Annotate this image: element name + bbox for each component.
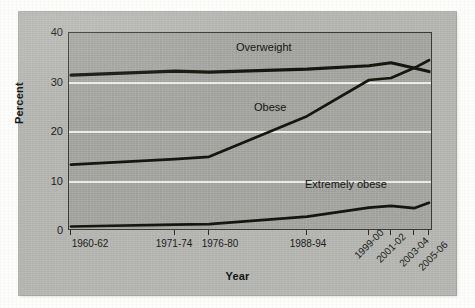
x-label-1960-62: 1960-62 <box>72 238 109 249</box>
x-label-1976-80: 1976-80 <box>202 238 239 249</box>
line-extremely-obese <box>71 203 429 227</box>
series-label-obese: Obese <box>254 101 286 113</box>
plot-area: Overweight Obese Extremely obese <box>68 32 432 230</box>
y-axis-tick-labels: 40 30 20 10 0 <box>19 32 63 230</box>
y-tick-20: 20 <box>51 126 63 137</box>
figure-panel: 40 30 20 10 0 Percent Overweight <box>19 12 456 295</box>
y-tick-0: 0 <box>57 225 63 236</box>
x-tick-2003-04 <box>413 230 414 235</box>
x-tick-1988-94 <box>306 230 307 235</box>
y-tick-30: 30 <box>51 77 63 88</box>
x-label-1988-94: 1988-94 <box>290 238 327 249</box>
x-tick-2001-02 <box>390 230 391 235</box>
x-tick-1960-62 <box>70 230 71 235</box>
x-tick-1976-80 <box>208 230 209 235</box>
line-overweight <box>71 63 429 75</box>
x-tick-2005-06 <box>428 230 429 235</box>
page-canvas: 40 30 20 10 0 Percent Overweight <box>0 0 475 308</box>
y-tick-40: 40 <box>51 27 63 38</box>
y-axis-title: Percent <box>13 82 25 124</box>
series-lines <box>69 33 433 231</box>
series-label-overweight: Overweight <box>236 41 292 53</box>
x-tick-1971-74 <box>174 230 175 235</box>
x-label-1971-74: 1971-74 <box>156 238 193 249</box>
series-label-extremely-obese: Extremely obese <box>305 178 387 190</box>
line-obese <box>71 60 429 165</box>
y-tick-10: 10 <box>51 176 63 187</box>
x-axis-title: Year <box>19 270 456 282</box>
